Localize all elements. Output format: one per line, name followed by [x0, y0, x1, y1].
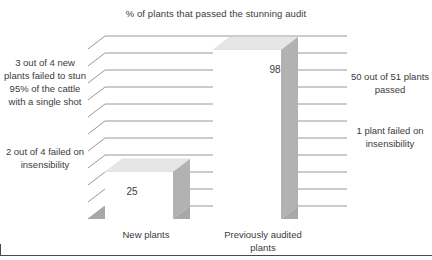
chart-canvas: % of plants that passed the stunning aud… [0, 0, 432, 260]
bar-value-label-previously-audited-plants: 98 [255, 64, 295, 75]
annotation-right-top: 50 out of 51 plants passed [348, 70, 432, 96]
bar-value-label-new-plants: 25 [112, 186, 152, 197]
frame-left-rule [0, 244, 1, 256]
frame-bottom-rule [0, 255, 432, 256]
annotation-left-bottom: 2 out of 4 failed on insensibility [2, 145, 88, 171]
category-label-new-plants: New plants [103, 228, 189, 241]
category-label-previously-audited-plants: Previously audited plants [213, 228, 313, 254]
annotation-left-top: 3 out of 4 new plants failed to stun 95%… [2, 56, 88, 108]
annotation-right-bottom: 1 plant failed on insensibility [348, 124, 432, 150]
